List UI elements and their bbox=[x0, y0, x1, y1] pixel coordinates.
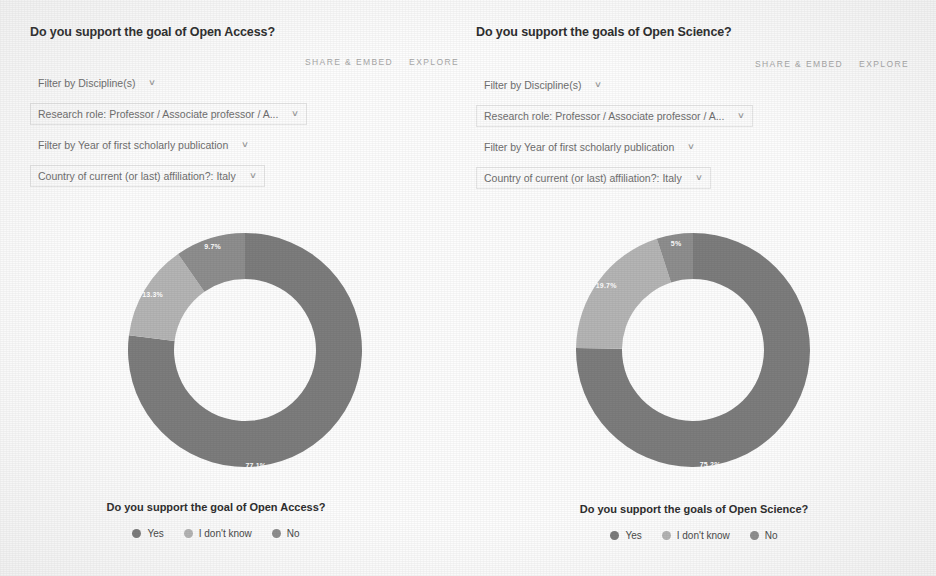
explore-link[interactable]: EXPLORE bbox=[859, 59, 909, 69]
explore-link[interactable]: EXPLORE bbox=[409, 57, 459, 67]
legend-item-no[interactable]: No bbox=[750, 530, 778, 541]
legend-item-i-dont-know[interactable]: I don't know bbox=[662, 530, 730, 541]
legend-label-yes: Yes bbox=[147, 528, 163, 539]
filter-discipline-label: Filter by Discipline(s) bbox=[38, 77, 135, 89]
donut-svg: 75.2%19.7%5% bbox=[573, 230, 813, 470]
legend-label-yes: Yes bbox=[625, 530, 641, 541]
filter-discipline-label: Filter by Discipline(s) bbox=[484, 79, 581, 91]
filter-discipline[interactable]: Filter by Discipline(s) ∨ bbox=[30, 72, 164, 94]
donut-svg: 77.1%13.3%9.7% bbox=[125, 230, 365, 470]
page-title: Do you support the goal of Open Access? bbox=[30, 25, 275, 39]
slice-label-yes: 75.2% bbox=[700, 461, 721, 468]
chevron-down-icon: ∨ bbox=[148, 79, 156, 87]
dashboard-page: Do you support the goal of Open Access? … bbox=[0, 0, 936, 576]
chevron-down-icon: ∨ bbox=[291, 110, 299, 118]
chart-legend: Yes I don't know No bbox=[0, 528, 450, 539]
filter-country-affiliation-label: Country of current (or last) affiliation… bbox=[484, 172, 682, 184]
slice-label-yes: 77.1% bbox=[245, 462, 266, 469]
legend-item-yes[interactable]: Yes bbox=[610, 530, 641, 541]
chevron-down-icon: ∨ bbox=[737, 112, 745, 120]
legend-swatch-yes bbox=[610, 531, 619, 540]
panel-actions: SHARE & EMBED EXPLORE bbox=[755, 59, 909, 69]
donut-slices bbox=[128, 233, 362, 467]
legend-label-i-dont-know: I don't know bbox=[677, 530, 730, 541]
slice-label-i-don-t-know: 19.7% bbox=[596, 282, 617, 289]
legend-item-i-dont-know[interactable]: I don't know bbox=[184, 528, 252, 539]
donut-chart-open-science[interactable]: 75.2%19.7%5% bbox=[573, 230, 813, 470]
legend-item-yes[interactable]: Yes bbox=[132, 528, 163, 539]
legend-label-no: No bbox=[765, 530, 778, 541]
legend-swatch-no bbox=[272, 529, 281, 538]
page-title: Do you support the goals of Open Science… bbox=[476, 25, 732, 39]
legend-label-no: No bbox=[287, 528, 300, 539]
filter-research-role-label: Research role: Professor / Associate pro… bbox=[38, 108, 278, 120]
donut-slice-i-don-t-know[interactable] bbox=[576, 239, 671, 349]
filter-country-affiliation-label: Country of current (or last) affiliation… bbox=[38, 170, 236, 182]
chart-legend: Yes I don't know No bbox=[460, 530, 928, 541]
donut-slices bbox=[576, 233, 810, 467]
chevron-down-icon: ∨ bbox=[687, 143, 695, 151]
legend-label-i-dont-know: I don't know bbox=[199, 528, 252, 539]
chevron-down-icon: ∨ bbox=[695, 174, 703, 182]
slice-label-no: 5% bbox=[671, 240, 682, 247]
donut-chart-open-access[interactable]: 77.1%13.3%9.7% bbox=[125, 230, 365, 470]
legend-swatch-yes bbox=[132, 529, 141, 538]
viz-panel-open-science: Do you support the goals of Open Science… bbox=[468, 0, 936, 576]
filter-discipline[interactable]: Filter by Discipline(s) ∨ bbox=[476, 74, 610, 96]
share-and-embed-link[interactable]: SHARE & EMBED bbox=[305, 57, 393, 67]
viz-panel-open-access: Do you support the goal of Open Access? … bbox=[0, 0, 468, 576]
legend-swatch-no bbox=[750, 531, 759, 540]
chevron-down-icon: ∨ bbox=[241, 141, 249, 149]
filter-country-affiliation[interactable]: Country of current (or last) affiliation… bbox=[30, 165, 265, 187]
legend-swatch-i-dont-know bbox=[184, 529, 193, 538]
filter-research-role-label: Research role: Professor / Associate pro… bbox=[484, 110, 724, 122]
filter-country-affiliation[interactable]: Country of current (or last) affiliation… bbox=[476, 167, 711, 189]
slice-label-no: 9.7% bbox=[204, 243, 221, 250]
filter-group: Filter by Discipline(s) ∨ Research role:… bbox=[476, 74, 753, 198]
filter-group: Filter by Discipline(s) ∨ Research role:… bbox=[30, 72, 307, 196]
share-and-embed-link[interactable]: SHARE & EMBED bbox=[755, 59, 843, 69]
legend-swatch-i-dont-know bbox=[662, 531, 671, 540]
slice-label-i-don-t-know: 13.3% bbox=[142, 291, 163, 298]
chevron-down-icon: ∨ bbox=[249, 172, 257, 180]
legend-item-no[interactable]: No bbox=[272, 528, 300, 539]
chart-caption: Do you support the goals of Open Science… bbox=[460, 503, 928, 515]
filter-year-first-publication[interactable]: Filter by Year of first scholarly public… bbox=[476, 136, 703, 158]
panel-actions: SHARE & EMBED EXPLORE bbox=[305, 57, 459, 67]
filter-year-first-publication-label: Filter by Year of first scholarly public… bbox=[484, 141, 674, 153]
filter-year-first-publication-label: Filter by Year of first scholarly public… bbox=[38, 139, 228, 151]
filter-year-first-publication[interactable]: Filter by Year of first scholarly public… bbox=[30, 134, 257, 156]
chart-caption: Do you support the goal of Open Access? bbox=[0, 501, 450, 513]
chevron-down-icon: ∨ bbox=[594, 81, 602, 89]
filter-research-role[interactable]: Research role: Professor / Associate pro… bbox=[476, 105, 753, 127]
filter-research-role[interactable]: Research role: Professor / Associate pro… bbox=[30, 103, 307, 125]
